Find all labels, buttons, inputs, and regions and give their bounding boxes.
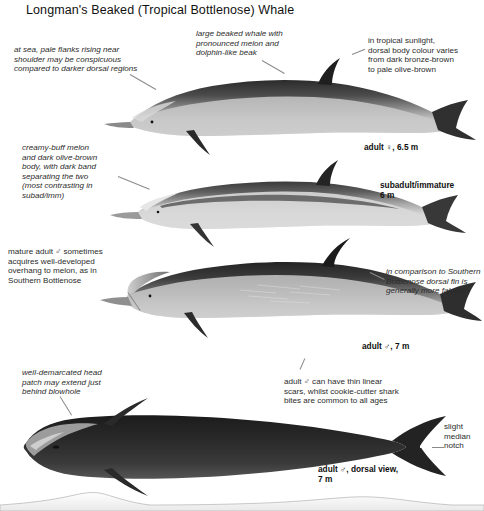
label-adult-male: adult ♂, 7 m [362, 341, 409, 351]
leader-line-head-patch [60, 396, 73, 415]
leader-line-median-notch [432, 447, 444, 448]
annotation-mature-male-overhang: mature adult ♂ sometimes acquires well-d… [8, 247, 148, 285]
label-subadult-immature: subadult/immature 6 m [380, 180, 454, 200]
annotation-tropical-sunlight: in tropical sunlight, dorsal body colour… [368, 36, 484, 74]
annotation-head-patch: well-demarcated head patch may extend ju… [22, 368, 134, 397]
annotation-at-sea-flanks: at sea, pale flanks rising near shoulder… [14, 45, 174, 74]
leader-line-linear-scars [300, 358, 306, 369]
sea-horizon [0, 493, 484, 511]
figure-subadult-immature [110, 160, 466, 247]
leader-line-mature-male [128, 292, 141, 311]
leader-line-dorsal-fin [370, 272, 385, 280]
leader-line-tropical-sunlight [352, 49, 365, 55]
annotation-creamy-buff-melon: creamy-buff melon and dark olive-brown b… [22, 143, 142, 201]
illustration-plate: Longman's Beaked (Tropical Bottlenose) W… [0, 0, 484, 511]
page-title: Longman's Beaked (Tropical Bottlenose) W… [26, 3, 294, 17]
annotation-linear-scars: adult ♂ can have thin linear scars, whil… [284, 377, 464, 406]
annotation-large-beaked: large beaked whale with pronounced melon… [196, 29, 316, 58]
annotation-dorsal-fin-falcate: in comparison to Southern Bottlenose dor… [386, 267, 484, 296]
leader-line-large-beaked [262, 60, 285, 74]
label-adult-male-dorsal: adult ♂, dorsal view, 7 m [318, 464, 398, 484]
leader-line-at-sea [130, 74, 156, 90]
label-adult-female: adult ♀, 6.5 m [364, 142, 418, 152]
annotation-median-notch: slight median notch [444, 422, 484, 451]
